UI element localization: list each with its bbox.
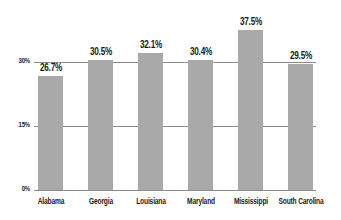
ytick-label-15: 15% <box>6 120 30 129</box>
gridline-15 <box>34 126 316 127</box>
x-label-south-carolina: South Carolina <box>269 196 331 206</box>
ytick-label-0: 0% <box>6 184 30 193</box>
bar-georgia <box>88 60 113 190</box>
bar-maryland <box>188 60 213 190</box>
gridline-30 <box>34 62 316 63</box>
bar-south-carolina <box>288 64 313 190</box>
bar-alabama <box>38 76 63 190</box>
value-label-south-carolina: 29.5% <box>281 49 320 61</box>
bar-louisiana <box>138 53 163 190</box>
x-axis-baseline <box>34 190 316 191</box>
value-label-georgia: 30.5% <box>81 45 120 57</box>
bar-mississippi <box>238 30 263 190</box>
value-label-louisiana: 32.1% <box>131 38 170 50</box>
bar-chart: 30% 15% 0% 26.7%Alabama30.5%Georgia32.1%… <box>0 0 341 220</box>
ytick-label-30: 30% <box>6 56 30 65</box>
value-label-maryland: 30.4% <box>181 45 220 57</box>
value-label-alabama: 26.7% <box>31 61 70 73</box>
value-label-mississippi: 37.5% <box>231 15 270 27</box>
